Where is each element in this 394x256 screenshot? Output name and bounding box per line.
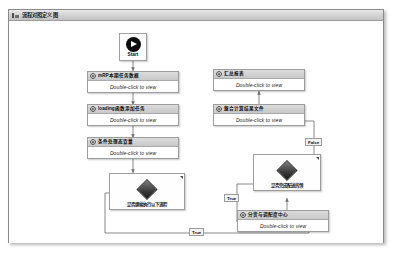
- node-body-text: Double-click to view: [236, 81, 282, 89]
- node-body[interactable]: Double-click to view: [214, 114, 304, 125]
- gear-icon: [90, 139, 96, 145]
- gear-icon: [90, 73, 96, 79]
- start-node-label: Start: [128, 52, 139, 58]
- node-header: loading函数添加任务: [88, 105, 178, 114]
- node-header: 整合计算结果文件: [214, 105, 304, 114]
- node-body-text: Double-click to view: [236, 116, 282, 124]
- node-distribute-center[interactable]: 分货与调配度中心 Double-click to view: [237, 210, 329, 232]
- node-header-label: 汇总报表: [224, 70, 244, 78]
- window-titlebar[interactable]: 流程对照定义图: [9, 10, 383, 21]
- decision-caption: 是否完成配送的领: [254, 183, 320, 189]
- gear-icon: [90, 106, 96, 112]
- node-header: 汇总报表: [214, 70, 304, 79]
- edge-label-true-mid: True: [224, 194, 239, 202]
- gear-icon: [240, 212, 246, 218]
- node-loading[interactable]: loading函数添加任务 Double-click to view: [87, 104, 179, 126]
- node-mrp-param[interactable]: mRP本期任务数据 Double-click to view: [87, 71, 179, 93]
- node-header: 分货与调配度中心: [238, 211, 328, 220]
- decision-right[interactable]: 是否完成配送的领: [253, 154, 321, 191]
- decision-caption: 是否继续执行以下流程: [110, 202, 184, 208]
- application-window: 流程对照定义图: [8, 9, 384, 243]
- node-body-text: Double-click to view: [260, 222, 306, 230]
- node-body-text: Double-click to view: [110, 83, 156, 91]
- diamond-icon: [276, 160, 297, 181]
- play-icon: [126, 37, 141, 52]
- decision-left[interactable]: 是否继续执行以下流程: [109, 173, 185, 210]
- node-body-text: Double-click to view: [110, 149, 156, 157]
- edge-label-true-bottom: True: [189, 228, 204, 236]
- node-body[interactable]: Double-click to view: [238, 220, 328, 231]
- flowchart-canvas[interactable]: Start mRP本期任务数据 Double-clic: [9, 21, 383, 243]
- screenshot-root: 流程对照定义图: [0, 0, 394, 256]
- workflow-icon: [12, 12, 19, 19]
- resize-corner-icon: [316, 157, 319, 160]
- node-body[interactable]: Double-click to view: [88, 81, 178, 92]
- node-header-label: 条件处理态查量: [98, 138, 133, 146]
- node-body-text: Double-click to view: [110, 116, 156, 124]
- resize-corner-icon: [180, 176, 183, 179]
- node-header-label: loading函数添加任务: [98, 105, 145, 113]
- window-title: 流程对照定义图: [22, 12, 58, 19]
- node-body[interactable]: Double-click to view: [88, 114, 178, 125]
- node-generate-file[interactable]: 整合计算结果文件 Double-click to view: [213, 104, 305, 126]
- diamond-icon: [136, 179, 157, 200]
- edge-label-false: False: [305, 138, 322, 146]
- node-condition-check[interactable]: 条件处理态查量 Double-click to view: [87, 137, 179, 159]
- gear-icon: [216, 106, 222, 112]
- gear-icon: [216, 71, 222, 77]
- node-body[interactable]: Double-click to view: [214, 79, 304, 90]
- node-body[interactable]: Double-click to view: [88, 147, 178, 158]
- node-header-label: mRP本期任务数据: [98, 72, 139, 80]
- node-header: mRP本期任务数据: [88, 72, 178, 81]
- start-node[interactable]: Start: [119, 33, 147, 61]
- node-header: 条件处理态查量: [88, 138, 178, 147]
- node-header-label: 整合计算结果文件: [224, 105, 264, 113]
- node-result-report[interactable]: 汇总报表 Double-click to view: [213, 69, 305, 91]
- node-header-label: 分货与调配度中心: [248, 211, 288, 219]
